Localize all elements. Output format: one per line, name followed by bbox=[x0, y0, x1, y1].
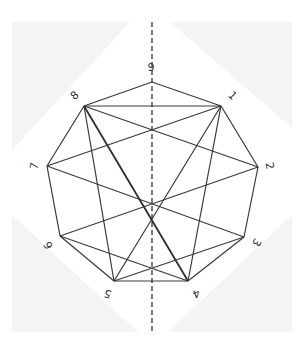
vertex-label-9: 9 bbox=[148, 61, 155, 74]
edge-8-2 bbox=[84, 106, 258, 167]
vertex-label-4: 4 bbox=[191, 286, 202, 301]
vertex-label-7: 7 bbox=[27, 161, 41, 170]
vertex-label-1: 1 bbox=[225, 89, 239, 103]
vertex-label-6: 6 bbox=[41, 239, 56, 252]
edge-6-7 bbox=[47, 166, 60, 236]
vertex-label-2: 2 bbox=[262, 161, 276, 170]
edge-8-9 bbox=[84, 82, 152, 106]
edge-7-3 bbox=[47, 166, 244, 237]
edge-9-1 bbox=[152, 82, 221, 106]
edge-1-2 bbox=[221, 106, 258, 167]
corner-triangle bbox=[170, 22, 292, 128]
edge-7-8 bbox=[47, 106, 84, 166]
edge-6-2 bbox=[60, 167, 258, 236]
edge-1-7 bbox=[47, 106, 221, 166]
nonagon-diagram: 123456789 bbox=[0, 0, 304, 349]
vertex-label-8: 8 bbox=[68, 88, 82, 102]
vertex-label-5: 5 bbox=[102, 286, 113, 301]
edge-5-3 bbox=[114, 237, 244, 281]
corner-triangle bbox=[12, 22, 130, 150]
edge-2-3 bbox=[244, 167, 258, 237]
vertex-label-3: 3 bbox=[249, 236, 264, 249]
edge-6-4 bbox=[60, 236, 188, 281]
